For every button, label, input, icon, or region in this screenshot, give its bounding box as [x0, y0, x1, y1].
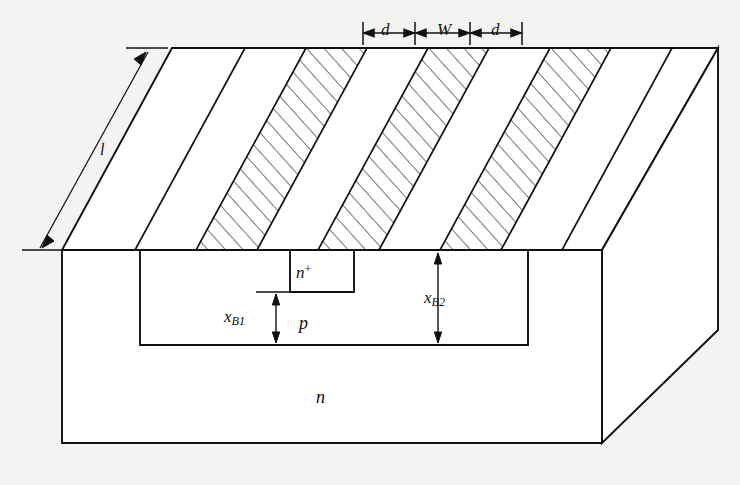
- label-xb2-subscript: B2: [432, 295, 446, 309]
- block-body: [62, 48, 718, 443]
- dim-arrow-w-start: [416, 29, 426, 36]
- dim-arrow-w-end: [459, 29, 469, 36]
- dim-arrow-d-left-start: [364, 29, 374, 36]
- device-diagram-svg: [0, 0, 740, 485]
- label-d-left: d: [381, 20, 390, 40]
- label-xb1-base: x: [224, 307, 232, 326]
- label-n-plus-base: n: [296, 263, 305, 282]
- label-p-region: p: [299, 313, 308, 334]
- label-d-right: d: [491, 20, 500, 40]
- label-xb1: xB1: [224, 307, 245, 329]
- label-xb2-base: x: [424, 288, 432, 307]
- label-xb1-subscript: B1: [232, 314, 246, 328]
- label-n-plus-superscript: +: [305, 262, 312, 276]
- label-length-l: l: [100, 141, 104, 159]
- dim-arrow-d-right-end: [511, 29, 521, 36]
- label-n-plus: n+: [296, 262, 311, 283]
- dim-arrow-d-left-end: [404, 29, 414, 36]
- front-face: [62, 250, 602, 443]
- label-n-substrate: n: [316, 387, 325, 408]
- label-w: W: [437, 20, 451, 40]
- label-xb2: xB2: [424, 288, 445, 310]
- figure-canvas: d W d l n+ xB1 p xB2 n: [0, 0, 740, 485]
- dim-arrow-d-right-start: [471, 29, 481, 36]
